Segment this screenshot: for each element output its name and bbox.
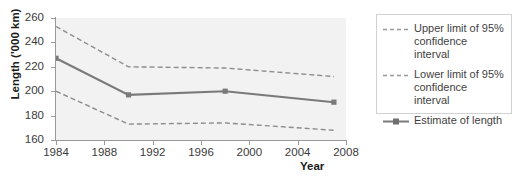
x-tick-mark [298, 141, 299, 145]
y-tick-mark [51, 91, 55, 92]
data-point-marker [331, 100, 336, 105]
x-tick-label: 1984 [36, 146, 76, 158]
legend-item: Estimate of length [383, 114, 505, 128]
data-point-marker [56, 56, 59, 61]
line-chart: 160180200220240260 198419881992199620002… [0, 0, 372, 178]
y-tick-label: 180 [14, 110, 44, 121]
x-tick-mark [104, 141, 105, 145]
y-tick-mark [51, 140, 55, 141]
series-upper-ci-line [56, 27, 334, 77]
x-tick-label: 1988 [84, 146, 124, 158]
data-point-marker [223, 89, 228, 94]
y-tick-mark [51, 67, 55, 68]
solid-line-marker-icon [383, 115, 409, 128]
y-axis-title: Length ('000 km) [9, 6, 21, 102]
legend-item: Upper limit of 95% confidence interval [383, 22, 505, 61]
y-axis-line [55, 17, 56, 141]
plot-area [56, 18, 346, 140]
x-tick-mark [56, 141, 57, 145]
legend-item: Lower limit of 95% confidence interval [383, 68, 505, 107]
x-tick-label: 2004 [278, 146, 318, 158]
y-tick-mark [51, 42, 55, 43]
x-tick-mark [201, 141, 202, 145]
series-estimate-line [56, 58, 334, 102]
x-tick-label: 1996 [181, 146, 221, 158]
y-tick-mark [51, 18, 55, 19]
legend-label: Upper limit of 95% confidence interval [414, 22, 505, 61]
x-tick-label: 1992 [133, 146, 173, 158]
plot-svg [56, 18, 346, 140]
x-axis-title: Year [300, 160, 360, 172]
legend-label: Lower limit of 95% confidence interval [414, 68, 505, 107]
x-tick-mark [346, 141, 347, 145]
data-point-marker [126, 92, 131, 97]
x-tick-mark [249, 141, 250, 145]
x-tick-label: 2000 [229, 146, 269, 158]
chart-screenshot: 160180200220240260 198419881992199620002… [0, 0, 516, 178]
y-tick-label: 160 [14, 134, 44, 145]
legend-label: Estimate of length [414, 114, 502, 127]
x-tick-mark [153, 141, 154, 145]
x-tick-label: 2008 [326, 146, 366, 158]
dashed-line-icon [383, 69, 409, 82]
y-tick-mark [51, 116, 55, 117]
chart-legend: Upper limit of 95% confidence intervalLo… [376, 14, 512, 114]
dashed-line-icon [383, 23, 409, 36]
